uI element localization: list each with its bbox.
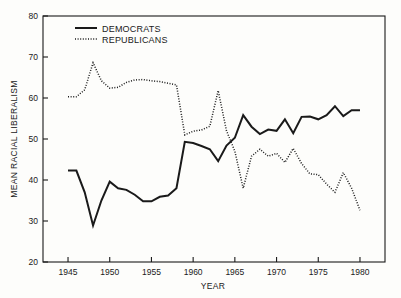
plot-frame	[43, 16, 385, 262]
chart-legend: DEMOCRATSREPUBLICANS	[75, 24, 168, 45]
x-tick-label: 1975	[309, 267, 328, 277]
series-line-democrats	[68, 106, 360, 225]
x-tick-label: 1980	[351, 267, 370, 277]
chart-canvas: 19451950195519601965197019751980 2030405…	[0, 0, 401, 298]
y-axis-ticks: 20304050607080	[29, 11, 48, 267]
racial-liberalism-line-chart: 19451950195519601965197019751980 2030405…	[0, 0, 401, 298]
x-axis-title: YEAR	[201, 281, 226, 291]
y-tick-label: 20	[29, 257, 39, 267]
x-tick-label: 1955	[142, 267, 161, 277]
y-tick-label: 60	[29, 93, 39, 103]
y-tick-label: 40	[29, 175, 39, 185]
x-tick-label: 1965	[225, 267, 244, 277]
y-tick-label: 50	[29, 134, 39, 144]
y-axis-title: MEAN RACIAL LIBERALISM	[9, 80, 19, 197]
y-tick-label: 80	[29, 11, 39, 21]
legend-label-republicans: REPUBLICANS	[102, 35, 168, 45]
x-tick-label: 1960	[184, 267, 203, 277]
x-axis-ticks: 19451950195519601965197019751980	[59, 257, 370, 277]
y-tick-label: 70	[29, 52, 39, 62]
series-line-republicans	[68, 63, 360, 211]
x-tick-label: 1950	[100, 267, 119, 277]
legend-label-democrats: DEMOCRATS	[102, 24, 161, 34]
x-tick-label: 1945	[59, 267, 78, 277]
y-tick-label: 30	[29, 216, 39, 226]
x-tick-label: 1970	[267, 267, 286, 277]
